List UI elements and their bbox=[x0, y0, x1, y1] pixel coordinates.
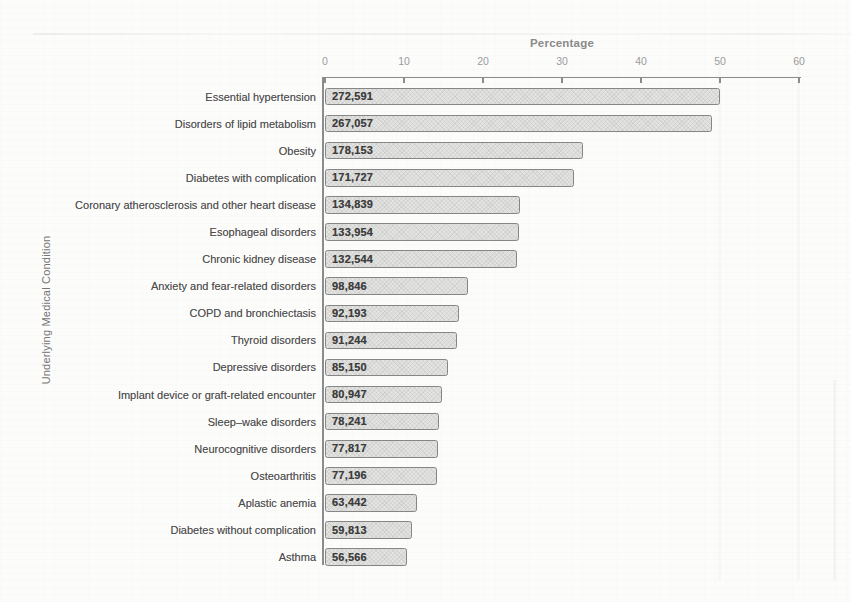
x-axis-tick bbox=[719, 78, 721, 83]
bar: 132,544 bbox=[325, 250, 517, 268]
bar-value-label: 272,591 bbox=[326, 91, 373, 102]
bar-value-label: 132,544 bbox=[326, 254, 373, 265]
x-axis-tick bbox=[561, 78, 563, 83]
bar-value-label: 178,153 bbox=[326, 145, 373, 156]
x-axis-tick-label: 50 bbox=[714, 55, 726, 67]
category-label: Thyroid disorders bbox=[0, 334, 325, 346]
bar: 59,813 bbox=[325, 521, 412, 539]
bar: 80,947 bbox=[325, 386, 442, 404]
bar-value-label: 91,244 bbox=[326, 335, 367, 346]
bar-value-label: 134,839 bbox=[326, 199, 373, 210]
bar-row: Chronic kidney disease 132,544 bbox=[0, 246, 851, 273]
category-label: Disorders of lipid metabolism bbox=[0, 118, 325, 130]
category-label: Obesity bbox=[0, 145, 325, 157]
bar-row: Implant device or graft-related encounte… bbox=[0, 381, 851, 408]
bar-row: COPD and bronchiectasis 92,193 bbox=[0, 300, 851, 327]
bar: 267,057 bbox=[325, 115, 712, 133]
x-axis-tick-label: 10 bbox=[398, 55, 410, 67]
bar-rows: Essential hypertension 272,591 Disorders… bbox=[0, 83, 851, 571]
x-axis-tick bbox=[798, 78, 800, 83]
bar: 171,727 bbox=[325, 169, 574, 187]
bar: 92,193 bbox=[325, 305, 459, 323]
category-label: Essential hypertension bbox=[0, 91, 325, 103]
bar-row: Depressive disorders 85,150 bbox=[0, 354, 851, 381]
category-label: Sleep–wake disorders bbox=[0, 416, 325, 428]
bar-row: Coronary atherosclerosis and other heart… bbox=[0, 191, 851, 218]
category-label: Anxiety and fear-related disorders bbox=[0, 280, 325, 292]
bar-row: Esophageal disorders 133,954 bbox=[0, 218, 851, 245]
bar-row: Obesity 178,153 bbox=[0, 137, 851, 164]
bar-value-label: 77,817 bbox=[326, 443, 367, 454]
bar-value-label: 77,196 bbox=[326, 470, 367, 481]
x-axis-tick bbox=[640, 78, 642, 83]
bar: 77,196 bbox=[325, 467, 437, 485]
bar-row: Sleep–wake disorders 78,241 bbox=[0, 408, 851, 435]
bar-row: Thyroid disorders 91,244 bbox=[0, 327, 851, 354]
bar-row: Diabetes without complication 59,813 bbox=[0, 517, 851, 544]
category-label: Osteoarthritis bbox=[0, 470, 325, 482]
category-label: Implant device or graft-related encounte… bbox=[0, 389, 325, 401]
category-label: Neurocognitive disorders bbox=[0, 443, 325, 455]
bar: 56,566 bbox=[325, 548, 407, 566]
scan-artifact-line bbox=[33, 33, 851, 35]
x-axis-tick-label: 60 bbox=[793, 55, 805, 67]
bar-value-label: 133,954 bbox=[326, 227, 373, 238]
bar-row: Aplastic anemia 63,442 bbox=[0, 489, 851, 516]
x-axis-tick bbox=[324, 78, 326, 83]
bar: 78,241 bbox=[325, 413, 439, 431]
bar-row: Disorders of lipid metabolism 267,057 bbox=[0, 110, 851, 137]
bar-value-label: 171,727 bbox=[326, 172, 373, 183]
category-label: Chronic kidney disease bbox=[0, 253, 325, 265]
bar-value-label: 59,813 bbox=[326, 525, 367, 536]
bar: 85,150 bbox=[325, 359, 448, 377]
bar-value-label: 85,150 bbox=[326, 362, 367, 373]
x-axis-tick bbox=[403, 78, 405, 83]
category-label: Depressive disorders bbox=[0, 361, 325, 373]
bar: 77,817 bbox=[325, 440, 438, 458]
bar-value-label: 56,566 bbox=[326, 552, 367, 563]
bar: 134,839 bbox=[325, 196, 520, 214]
bar-value-label: 267,057 bbox=[326, 118, 373, 129]
x-axis-title: Percentage bbox=[530, 37, 594, 49]
scanned-bar-chart-figure: Percentage 0102030405060 Underlying Medi… bbox=[0, 0, 851, 602]
bar-row: Essential hypertension 272,591 bbox=[0, 83, 851, 110]
category-label: Diabetes without complication bbox=[0, 524, 325, 536]
bar-row: Diabetes with complication 171,727 bbox=[0, 164, 851, 191]
bar-value-label: 92,193 bbox=[326, 308, 367, 319]
category-label: Aplastic anemia bbox=[0, 497, 325, 509]
category-label: Coronary atherosclerosis and other heart… bbox=[0, 199, 325, 211]
category-label: COPD and bronchiectasis bbox=[0, 307, 325, 319]
x-axis-tick-label: 20 bbox=[477, 55, 489, 67]
bar-row: Asthma 56,566 bbox=[0, 544, 851, 571]
category-label: Esophageal disorders bbox=[0, 226, 325, 238]
bar-value-label: 98,846 bbox=[326, 281, 367, 292]
bar: 98,846 bbox=[325, 277, 468, 295]
x-axis-tick-label: 30 bbox=[556, 55, 568, 67]
category-label: Diabetes with complication bbox=[0, 172, 325, 184]
x-axis-tick-label: 40 bbox=[635, 55, 647, 67]
bar: 91,244 bbox=[325, 332, 457, 350]
x-axis-tick bbox=[482, 78, 484, 83]
bar-row: Neurocognitive disorders 77,817 bbox=[0, 435, 851, 462]
bar-row: Anxiety and fear-related disorders 98,84… bbox=[0, 273, 851, 300]
x-axis-tick-label: 0 bbox=[322, 55, 328, 67]
bar-value-label: 63,442 bbox=[326, 497, 367, 508]
bar: 133,954 bbox=[325, 223, 519, 241]
bar-value-label: 80,947 bbox=[326, 389, 367, 400]
bar: 63,442 bbox=[325, 494, 417, 512]
category-label: Asthma bbox=[0, 551, 325, 563]
bar-value-label: 78,241 bbox=[326, 416, 367, 427]
bar: 178,153 bbox=[325, 142, 583, 160]
bar-row: Osteoarthritis 77,196 bbox=[0, 462, 851, 489]
bar: 272,591 bbox=[325, 88, 720, 106]
